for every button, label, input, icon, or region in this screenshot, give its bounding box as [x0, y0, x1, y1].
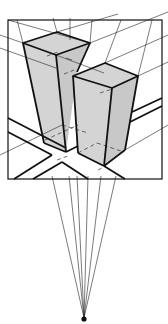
guide-line	[90, 12, 168, 43]
road-edge	[104, 166, 125, 179]
perspective-diagram	[0, 0, 168, 324]
guide-line	[84, 176, 101, 318]
guide-line	[90, 20, 92, 43]
guide-line	[69, 176, 84, 318]
guide-line	[105, 35, 168, 63]
road-edge	[14, 155, 52, 179]
guide-line	[84, 176, 116, 318]
guide-line	[138, 62, 168, 76]
guide-line	[52, 176, 84, 318]
road-edge	[62, 162, 88, 179]
road-edge	[132, 98, 162, 112]
guide-line	[138, 20, 152, 76]
hidden-edge	[57, 156, 68, 160]
hidden-edge	[98, 167, 104, 170]
guide-line	[57, 14, 118, 32]
road-edge	[130, 106, 162, 122]
guide-line	[105, 20, 121, 63]
vanishing-point	[81, 316, 86, 321]
guide-line	[84, 176, 88, 318]
tall-block-edge	[66, 146, 78, 152]
guide-line	[77, 176, 84, 318]
guide-line	[0, 35, 23, 43]
